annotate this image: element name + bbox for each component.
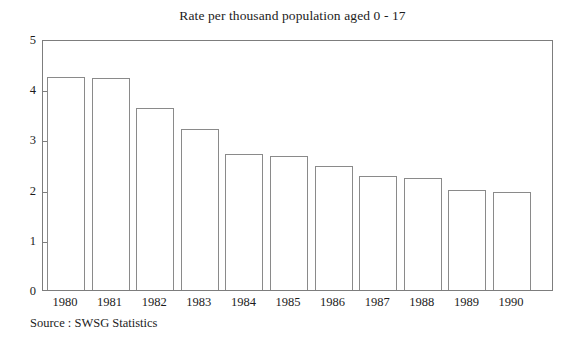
x-axis-tick-label: 1982 bbox=[129, 296, 179, 309]
x-axis-tick-label: 1985 bbox=[263, 296, 313, 309]
x-axis-tick-label: 1980 bbox=[40, 296, 90, 309]
bar bbox=[359, 176, 397, 290]
bar bbox=[47, 77, 85, 290]
bar bbox=[493, 192, 531, 290]
x-axis-tick-label: 1981 bbox=[85, 296, 135, 309]
x-axis-tick-label: 1990 bbox=[486, 296, 536, 309]
chart-title: Rate per thousand population aged 0 - 17 bbox=[0, 8, 585, 24]
y-axis-tick-label: 2 bbox=[16, 184, 36, 197]
bar bbox=[315, 166, 353, 290]
bar bbox=[270, 156, 308, 290]
x-axis-labels: 1980198119821983198419851986198719881989… bbox=[0, 296, 585, 312]
x-axis-tick-label: 1984 bbox=[218, 296, 268, 309]
y-axis-tick-label: 4 bbox=[16, 84, 36, 97]
x-axis-tick-label: 1988 bbox=[397, 296, 447, 309]
y-axis-tick-label: 3 bbox=[16, 134, 36, 147]
x-axis-tick-label: 1987 bbox=[352, 296, 402, 309]
bar bbox=[225, 154, 263, 290]
bar bbox=[448, 190, 486, 290]
y-axis-tick-label: 5 bbox=[16, 34, 36, 47]
x-axis-tick-label: 1983 bbox=[174, 296, 224, 309]
y-axis-tick-label: 1 bbox=[16, 235, 36, 248]
source-note: Source : SWSG Statistics bbox=[30, 316, 157, 331]
bar bbox=[92, 78, 130, 290]
bar bbox=[136, 108, 174, 290]
bar bbox=[181, 129, 219, 290]
bar bbox=[404, 178, 442, 290]
x-axis-tick-label: 1986 bbox=[308, 296, 358, 309]
plot-area bbox=[42, 40, 553, 291]
chart-page: Rate per thousand population aged 0 - 17… bbox=[0, 0, 585, 346]
x-axis-tick-label: 1989 bbox=[441, 296, 491, 309]
